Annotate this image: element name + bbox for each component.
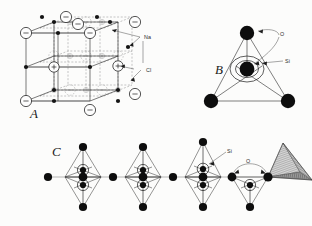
label-cl: Cl — [146, 67, 152, 73]
atom-o — [246, 203, 254, 211]
panel-a-leaders — [112, 30, 143, 80]
label-si: Si — [285, 58, 290, 64]
ion-cl — [20, 95, 31, 106]
tetrahedron-down — [125, 177, 161, 211]
cell-front-edges — [26, 22, 118, 101]
atom-o-bridging — [199, 173, 208, 182]
ion-na-dot — [52, 20, 56, 24]
ion-cl — [84, 27, 95, 38]
tetrahedron-down — [65, 177, 101, 211]
o-o-arc — [234, 164, 266, 172]
ion-na-dot — [95, 15, 99, 19]
panel-letter-b: B — [215, 62, 223, 77]
panel-a-nacl-cell: A Na Cl — [20, 11, 151, 121]
panel-letter-c: C — [52, 144, 61, 159]
ion-na-dot — [56, 31, 60, 35]
ion-cl — [129, 88, 140, 99]
ion-cl — [84, 104, 95, 115]
panel-b-sio4-tetrahedron: B O Si — [204, 26, 295, 108]
ion-na-dot — [52, 88, 56, 92]
figure-canvas: A Na Cl — [0, 0, 312, 226]
label-si-chain: Si — [227, 148, 232, 154]
label-o-chain: O — [246, 158, 250, 164]
tetrahedron-up — [125, 143, 161, 177]
atom-si — [240, 62, 255, 77]
ion-na-dot — [40, 15, 44, 19]
atom-si — [80, 182, 86, 188]
panel-c-silicate-chain: C Si O — [44, 138, 312, 211]
ion-na-dot — [116, 99, 120, 103]
atom-si — [140, 182, 146, 188]
tetrahedron-up — [185, 138, 221, 177]
ion-na-dot — [88, 65, 92, 69]
ion-cl — [72, 18, 83, 29]
atom-o-bridging — [79, 173, 88, 182]
atom-si — [140, 167, 146, 173]
atom-o — [199, 138, 207, 146]
arrowhead — [130, 43, 134, 47]
atom-o-bridging — [169, 173, 177, 181]
atom-o-bridging — [109, 173, 117, 181]
arrowhead — [261, 170, 266, 174]
atom-o-bridging — [263, 172, 272, 181]
panel-letter-a: A — [29, 106, 38, 121]
atom-o — [139, 143, 147, 151]
ion-na-dot — [108, 20, 112, 24]
ion-na-dot — [126, 45, 130, 49]
atom-o — [281, 94, 295, 108]
atom-o-bridging — [139, 173, 148, 182]
tetrahedron-down — [232, 177, 268, 211]
atom-o — [199, 203, 207, 211]
atom-o — [139, 203, 147, 211]
tetrahedron-up — [65, 143, 101, 177]
ion-na-dot — [24, 65, 28, 69]
atom-si — [80, 167, 86, 173]
arrowhead — [234, 169, 239, 173]
crystal-structure-figure: A Na Cl — [0, 0, 312, 226]
shaded-tetrahedron — [268, 143, 312, 180]
atom-o-bridging — [44, 173, 52, 181]
atom-o — [240, 26, 254, 40]
arrowhead — [112, 29, 117, 33]
atom-o — [204, 94, 218, 108]
tetrahedron-down — [185, 177, 221, 211]
label-na: Na — [144, 34, 151, 40]
label-o: O — [280, 31, 284, 37]
atom-si — [200, 166, 206, 172]
atom-o-bridging — [228, 173, 237, 182]
ion-cl — [129, 16, 140, 27]
ion-cl — [60, 11, 71, 22]
ion-na-dot — [52, 99, 56, 103]
ion-cl — [20, 27, 31, 38]
atom-si — [247, 182, 253, 188]
atom-si — [200, 182, 206, 188]
atom-o — [79, 203, 87, 211]
atom-o — [79, 143, 87, 151]
ion-na-ringed — [49, 62, 59, 72]
ion-na-dot — [116, 88, 120, 92]
